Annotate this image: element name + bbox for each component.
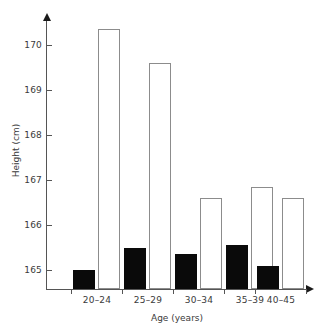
- y-axis-title: Height (cm): [12, 111, 21, 191]
- y-tick-mark: [47, 45, 52, 46]
- x-axis-line: [46, 289, 308, 290]
- y-axis-arrow-icon: [43, 13, 51, 21]
- bar-filled-2: [175, 254, 197, 289]
- bar-hollow-4: [282, 198, 304, 289]
- x-tick-label-0: 20–24: [69, 296, 125, 305]
- x-axis-title: Age (years): [46, 314, 308, 323]
- y-tick-label: 167: [24, 176, 42, 185]
- x-tick-mark: [255, 289, 256, 294]
- y-tick-label: 166: [24, 221, 42, 230]
- bar-filled-3: [226, 245, 248, 289]
- bar-hollow-2: [200, 198, 222, 289]
- x-axis-arrow-icon: [306, 285, 314, 293]
- x-tick-mark: [224, 289, 225, 294]
- y-tick-mark: [47, 90, 52, 91]
- y-tick-mark: [47, 225, 52, 226]
- x-tick-mark: [122, 289, 123, 294]
- bar-filled-0: [73, 270, 95, 289]
- y-axis-line: [46, 20, 47, 289]
- y-tick-label: 168: [24, 131, 42, 140]
- y-tick-label: 170: [24, 41, 42, 50]
- x-tick-mark: [71, 289, 72, 294]
- bar-filled-1: [124, 248, 146, 290]
- x-tick-label-4: 40–45: [253, 296, 309, 305]
- y-tick-mark: [47, 270, 52, 271]
- x-tick-label-1: 25–29: [120, 296, 176, 305]
- y-tick-label: 165: [24, 266, 42, 275]
- bar-chart: 165 166 167 168 169 170 Height (cm) 20–2…: [0, 0, 321, 334]
- bar-filled-4: [257, 266, 279, 290]
- x-tick-mark: [173, 289, 174, 294]
- x-tick-label-2: 30–34: [171, 296, 227, 305]
- bar-hollow-0: [98, 29, 120, 289]
- y-tick-mark: [47, 180, 52, 181]
- x-tick-mark: [306, 289, 307, 294]
- y-tick-mark: [47, 135, 52, 136]
- y-tick-label: 169: [24, 86, 42, 95]
- bar-hollow-1: [149, 63, 171, 289]
